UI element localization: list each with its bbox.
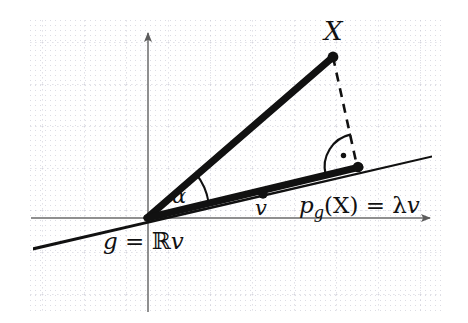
projection-p-symbol: p bbox=[299, 192, 314, 218]
reals-symbol: ℝ bbox=[152, 228, 171, 254]
projection-vector-v: v bbox=[407, 192, 420, 218]
label-projection-formula: pg(X) = λv bbox=[299, 194, 420, 221]
label-g-definition: g = ℝv bbox=[103, 230, 184, 253]
label-point-X: X bbox=[324, 18, 343, 44]
point-projection-marker bbox=[353, 162, 363, 172]
g-symbol: g bbox=[103, 228, 118, 254]
projection-subscript-g: g bbox=[314, 203, 324, 222]
grid-layer bbox=[30, 18, 441, 311]
point-X-marker bbox=[328, 52, 339, 63]
label-vector-v: v bbox=[255, 198, 267, 219]
label-angle-alpha: α bbox=[172, 186, 186, 207]
g-equals: = bbox=[118, 228, 152, 254]
projection-equals: = bbox=[358, 192, 392, 218]
g-vector-v: v bbox=[171, 228, 184, 254]
right-angle-dot bbox=[341, 153, 346, 158]
diagram-canvas bbox=[0, 0, 468, 323]
projection-argument: (X) bbox=[324, 192, 358, 218]
projection-diagram: X α v pg(X) = λv g = ℝv bbox=[0, 0, 468, 323]
projection-lambda: λ bbox=[392, 192, 407, 218]
